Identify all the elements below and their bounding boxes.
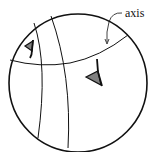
sphere-diagram: axis <box>0 0 155 152</box>
marker-right <box>86 59 102 86</box>
marker-left <box>25 40 33 58</box>
sphere-outline <box>9 14 147 152</box>
meridian-right <box>51 16 69 148</box>
axis-curve <box>10 35 128 65</box>
meridian-left <box>34 23 42 138</box>
axis-label: axis <box>125 6 145 20</box>
